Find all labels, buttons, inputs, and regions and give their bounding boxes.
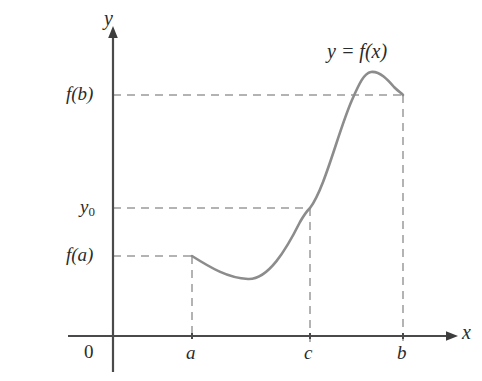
function-curve: [192, 72, 403, 279]
x-axis-label: x: [462, 322, 471, 342]
y-tick-label-y0-subscript: 0: [88, 204, 95, 219]
x-tick-label-a: a: [186, 343, 196, 362]
x-tick-label-c: c: [304, 343, 312, 362]
function-graph-svg: [0, 0, 482, 381]
y-tick-label-fa: f(a): [66, 245, 93, 264]
y-tick-label-fb: f(b): [66, 84, 93, 103]
origin-label: 0: [84, 342, 94, 361]
y-tick-label-y0: y0: [80, 197, 95, 216]
x-axis-arrow-icon: [446, 331, 458, 341]
curve-name-annotation: y = f(x): [327, 41, 387, 61]
math-figure-canvas: y x 0 a c b f(b) y0 f(a) y = f(x): [0, 0, 482, 381]
y-axis-label: y: [104, 8, 113, 28]
x-tick-label-b: b: [397, 343, 407, 362]
